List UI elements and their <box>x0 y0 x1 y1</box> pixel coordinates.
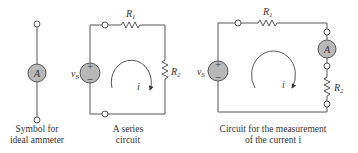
terminal-top <box>235 20 241 26</box>
terminal-top <box>102 22 108 28</box>
ammeter-symbol-figure: A Symbol for ideal ammeter <box>10 21 65 145</box>
r1-label: R1 <box>262 6 273 19</box>
ammeter-label: A <box>323 44 331 55</box>
terminal-bottom <box>102 111 108 117</box>
source-label: vS <box>197 66 205 79</box>
resistor-r1-icon <box>121 22 140 28</box>
terminal-bottom <box>34 117 40 123</box>
plus-sign: + <box>87 61 93 72</box>
terminal-top <box>34 21 40 27</box>
resistor-r1-icon <box>258 20 277 26</box>
resistor-r2-icon <box>324 77 330 96</box>
minus-sign: – <box>87 73 94 84</box>
terminal-ammeter-top <box>324 29 330 35</box>
caption-line-2: ideal ammeter <box>10 135 65 145</box>
r1-label: R1 <box>125 8 136 21</box>
caption-line-2: circuit <box>116 135 141 145</box>
r2-label: R2 <box>333 82 344 95</box>
measurement-circuit-figure: A + – vS R1 R2 i Circuit for the measure… <box>197 6 344 145</box>
terminal-r2-bottom <box>324 101 330 107</box>
caption-line-2: of the current i <box>245 135 302 145</box>
series-circuit-figure: + – vS R1 R2 i A series circuit <box>71 8 181 145</box>
current-arrow-icon <box>252 51 296 88</box>
minus-sign: – <box>215 71 222 82</box>
current-arrow-icon <box>111 60 151 90</box>
current-label: i <box>282 79 285 90</box>
current-label: i <box>137 81 140 92</box>
caption-line-1: A series <box>113 124 144 134</box>
ammeter-label: A <box>33 68 41 79</box>
resistor-r2-icon <box>162 60 168 79</box>
source-label: vS <box>71 68 79 81</box>
plus-sign: + <box>215 59 221 70</box>
caption-line-1: Circuit for the measurement <box>220 124 327 134</box>
caption-line-1: Symbol for <box>15 124 59 134</box>
r2-label: R2 <box>170 66 181 79</box>
circuit-diagram: A Symbol for ideal ammeter + – vS R1 R2 … <box>0 0 358 153</box>
terminal-ammeter-bottom <box>324 63 330 69</box>
